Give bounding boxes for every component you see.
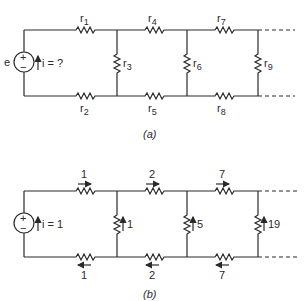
circuit-a: + − e i = ? r1 r2 r3 r4 r5 r6 r7 r8 r9 (… <box>4 12 295 140</box>
caption-b: (b) <box>143 288 157 300</box>
svg-text:2: 2 <box>149 168 155 180</box>
svg-text:r3: r3 <box>123 57 132 72</box>
shunt-1-b <box>114 191 120 257</box>
top-rail-b <box>24 188 258 194</box>
shunt-r6 <box>184 30 190 96</box>
svg-text:7: 7 <box>219 269 225 281</box>
ladder-network-figure: + − e i = ? r1 r2 r3 r4 r5 r6 r7 r8 r9 (… <box>0 0 306 301</box>
minus-sign-a: − <box>20 61 26 73</box>
svg-text:5: 5 <box>197 218 203 230</box>
circuit-b: + − i = 1 1 2 7 1 2 7 1 5 19 (b) <box>14 168 300 300</box>
shunt-r9 <box>255 30 261 96</box>
svg-text:1: 1 <box>127 218 133 230</box>
shunt-3-b <box>255 191 261 257</box>
svg-text:r7: r7 <box>217 12 226 27</box>
svg-text:r9: r9 <box>264 57 273 72</box>
svg-text:r6: r6 <box>193 57 202 72</box>
svg-text:r1: r1 <box>80 12 89 27</box>
svg-text:r5: r5 <box>148 102 157 117</box>
bottom-rail-a <box>24 93 258 99</box>
bottom-rail-b <box>24 254 258 260</box>
emf-label: e <box>4 56 10 68</box>
svg-text:2: 2 <box>149 269 155 281</box>
svg-text:r2: r2 <box>80 102 89 117</box>
svg-text:7: 7 <box>219 168 225 180</box>
svg-text:r4: r4 <box>148 12 157 27</box>
minus-sign-b: − <box>20 222 26 234</box>
shunt-r3 <box>114 30 120 96</box>
shunt-2-b <box>184 191 190 257</box>
svg-text:r8: r8 <box>217 102 226 117</box>
current-label-a: i = ? <box>42 57 63 69</box>
svg-text:1: 1 <box>81 269 87 281</box>
svg-text:1: 1 <box>81 168 87 180</box>
svg-text:19: 19 <box>268 218 280 230</box>
top-rail-a <box>24 27 258 33</box>
caption-a: (a) <box>143 128 157 140</box>
current-label-b: i = 1 <box>42 218 63 230</box>
